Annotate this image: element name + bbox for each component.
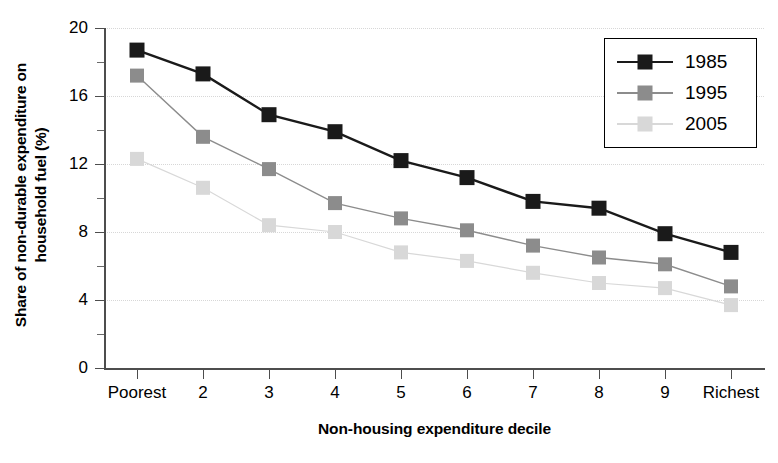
y-tick-major: [95, 164, 104, 165]
x-tick-label: 3: [264, 383, 273, 403]
x-tick: [203, 370, 204, 379]
x-tick: [599, 370, 600, 379]
x-tick: [467, 370, 468, 379]
x-tick-label: 9: [660, 383, 669, 403]
y-tick-major: [95, 96, 104, 97]
y-axis-tick-labels: 048121620: [22, 0, 88, 463]
legend-label-1995: 1995: [673, 83, 727, 102]
x-axis-title: Non-housing expenditure decile: [104, 420, 765, 438]
y-tick-major: [95, 232, 104, 233]
gridline: [104, 300, 764, 301]
chart-legend: 1985 1995 2005: [604, 38, 757, 148]
chart-figure: Share of non-durable expenditure on hous…: [0, 0, 778, 463]
x-tick-label: 8: [594, 383, 603, 403]
gridline: [104, 164, 764, 165]
x-tick-label: 5: [396, 383, 405, 403]
y-tick-major: [95, 300, 104, 301]
y-tick-major: [95, 28, 104, 29]
y-tick-minor: [97, 266, 104, 267]
x-tick-label: 2: [198, 383, 207, 403]
x-tick: [335, 370, 336, 379]
y-tick-minor: [97, 130, 104, 131]
x-tick-label: 6: [462, 383, 471, 403]
y-tick-label: 8: [28, 222, 88, 242]
y-axis-line: [104, 28, 106, 369]
y-tick-label: 20: [28, 18, 88, 38]
legend-item-1985[interactable]: 1985: [605, 46, 756, 77]
x-tick: [269, 370, 270, 379]
legend-swatch-1995: [617, 83, 673, 103]
legend-label-1985: 1985: [673, 52, 727, 71]
x-tick: [137, 370, 138, 379]
legend-item-1995[interactable]: 1995: [605, 77, 756, 108]
y-tick-minor: [97, 62, 104, 63]
x-tick-label: Richest: [703, 383, 760, 403]
gridline: [104, 28, 764, 29]
y-tick-minor: [97, 198, 104, 199]
x-tick: [401, 370, 402, 379]
legend-item-2005[interactable]: 2005: [605, 108, 756, 139]
legend-label-2005: 2005: [673, 114, 727, 133]
legend-swatch-1985: [617, 52, 673, 72]
x-tick-label: 7: [528, 383, 537, 403]
y-tick-label: 0: [28, 358, 88, 378]
y-tick-label: 12: [28, 154, 88, 174]
x-tick-label: Poorest: [108, 383, 167, 403]
y-tick-minor: [97, 334, 104, 335]
x-tick-label: 4: [330, 383, 339, 403]
x-tick: [731, 370, 732, 379]
y-tick-label: 16: [28, 86, 88, 106]
y-tick-major: [95, 368, 104, 369]
legend-swatch-2005: [617, 114, 673, 134]
y-tick-label: 4: [28, 290, 88, 310]
x-tick: [665, 370, 666, 379]
gridline: [104, 232, 764, 233]
x-tick: [533, 370, 534, 379]
